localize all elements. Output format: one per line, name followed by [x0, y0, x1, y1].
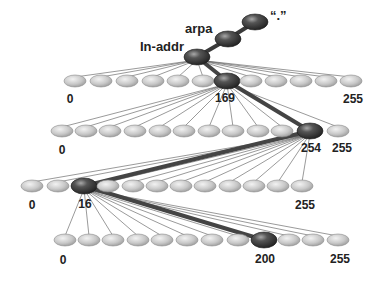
- tree-nodes: [21, 14, 362, 248]
- tree-node: [327, 125, 349, 137]
- tree-node: [222, 125, 244, 137]
- tree-node: [315, 75, 337, 87]
- tree-node: [146, 180, 168, 192]
- octet-label: 254: [301, 141, 321, 155]
- octet-label: 0: [59, 143, 66, 157]
- octet-label: 0: [29, 198, 36, 212]
- tree-node: [243, 180, 265, 192]
- tree-node: [78, 234, 100, 246]
- highlighted-edge: [84, 186, 264, 240]
- tree-node: [149, 125, 171, 137]
- tree-node: [291, 180, 313, 192]
- octet-label: 255: [295, 198, 315, 212]
- edge: [135, 84, 227, 127]
- highlighted-node: [297, 123, 323, 139]
- edge: [101, 60, 197, 77]
- highlighted-node: [251, 232, 277, 248]
- tree-node: [64, 75, 86, 87]
- tree-node: [201, 234, 223, 246]
- tree-node: [302, 234, 324, 246]
- octet-label: 16: [78, 197, 92, 211]
- tree-node: [173, 125, 195, 137]
- octet-label: 0: [60, 253, 67, 267]
- tree-node: [122, 180, 144, 192]
- root-label: “.”: [270, 8, 287, 23]
- tree-node: [327, 234, 349, 246]
- octet-label: 255: [343, 92, 363, 106]
- tree-node: [170, 180, 192, 192]
- tree-node: [21, 180, 43, 192]
- tree-node: [265, 75, 287, 87]
- arpa-node: [215, 31, 241, 47]
- highlighted-node: [214, 73, 240, 89]
- tree-node: [247, 125, 269, 137]
- tree-node: [194, 180, 216, 192]
- tree-node: [278, 234, 300, 246]
- octet-label: 255: [330, 252, 350, 266]
- tree-node: [54, 234, 76, 246]
- reverse-dns-tree-diagram: “.” arpa In-addr 01692550254255016255020…: [0, 0, 383, 284]
- highlighted-edge: [84, 131, 310, 186]
- edge: [157, 134, 310, 182]
- octet-label: 0: [67, 92, 74, 106]
- tree-node: [151, 234, 173, 246]
- tree-node: [90, 75, 112, 87]
- tree-node: [271, 125, 293, 137]
- tree-node: [167, 75, 189, 87]
- octet-label: 255: [332, 141, 352, 155]
- tree-node: [192, 75, 214, 87]
- edge: [84, 189, 238, 236]
- tree-node: [198, 125, 220, 137]
- tree-node: [102, 234, 124, 246]
- edge: [227, 84, 282, 127]
- arpa-label: arpa: [185, 21, 213, 36]
- edge: [110, 84, 227, 127]
- highlighted-node: [71, 178, 97, 194]
- tree-node: [99, 125, 121, 137]
- tree-node: [240, 75, 262, 87]
- in-addr-label: In-addr: [140, 39, 184, 54]
- edge: [62, 84, 227, 127]
- tree-node: [51, 125, 73, 137]
- tree-node: [47, 180, 69, 192]
- tree-node: [267, 180, 289, 192]
- tree-node: [340, 75, 362, 87]
- tree-node: [75, 125, 97, 137]
- tree-node: [227, 234, 249, 246]
- tree-node: [219, 180, 241, 192]
- tree-node: [127, 234, 149, 246]
- tree-node: [142, 75, 164, 87]
- edge: [133, 134, 310, 182]
- octet-label: 200: [255, 252, 275, 266]
- tree-node: [97, 180, 119, 192]
- octet-label: 169: [215, 91, 235, 105]
- highlighted-edge: [227, 81, 310, 131]
- edge: [84, 189, 212, 236]
- tree-node: [124, 125, 146, 137]
- tree-node: [290, 75, 312, 87]
- in-addr-node: [184, 49, 210, 65]
- edge: [75, 60, 197, 77]
- root-node: [242, 14, 268, 30]
- tree-node: [176, 234, 198, 246]
- tree-node: [116, 75, 138, 87]
